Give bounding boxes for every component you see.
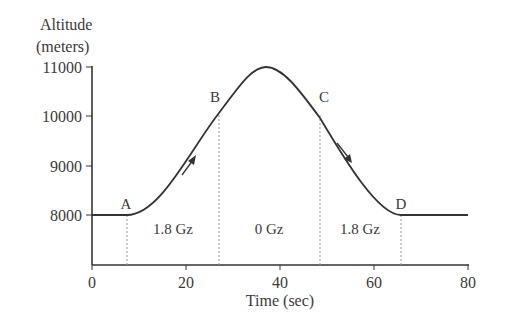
y-axis-unit: (meters) [36, 38, 89, 56]
x-tick-label-20: 20 [178, 274, 194, 291]
y-tick-label-9000: 9000 [50, 158, 82, 175]
altitude-chart: Altitude (meters) 11000 10000 9000 8000 … [0, 0, 506, 328]
y-tick-label-8000: 8000 [50, 207, 82, 224]
phase-dividers [127, 115, 401, 265]
y-axis-title: Altitude [40, 16, 92, 33]
x-tick-label-60: 60 [366, 274, 382, 291]
point-label-d: D [396, 196, 407, 212]
descent-arrow [337, 143, 352, 163]
x-tick-label-80: 80 [460, 274, 476, 291]
point-label-a: A [121, 196, 132, 212]
point-label-b: B [210, 89, 220, 105]
altitude-curve [92, 67, 468, 215]
gz-label-weightless: 0 Gz [255, 221, 284, 237]
gz-label-ascent: 1.8 Gz [153, 221, 193, 237]
x-tick-label-0: 0 [88, 274, 96, 291]
y-tick-label-11000: 11000 [43, 59, 82, 76]
x-tick-label-40: 40 [272, 274, 288, 291]
point-label-c: C [319, 89, 329, 105]
y-ticks [86, 67, 92, 215]
x-axis-title: Time (sec) [246, 292, 314, 310]
gz-label-descent: 1.8 Gz [340, 221, 380, 237]
y-tick-label-10000: 10000 [42, 108, 82, 125]
